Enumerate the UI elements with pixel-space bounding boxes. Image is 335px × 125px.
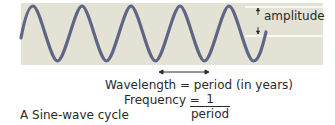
wavelength-arrow-icon bbox=[159, 70, 209, 74]
frequency-formula-prefix: Frequency = bbox=[124, 93, 200, 107]
frequency-numerator: 1 bbox=[190, 92, 230, 107]
amplitude-arrow-icon bbox=[257, 8, 260, 34]
frequency-fraction: 1 period bbox=[190, 92, 230, 122]
frequency-denominator: period bbox=[190, 107, 230, 122]
sine-wave-curve bbox=[21, 6, 266, 61]
amplitude-label: amplitude bbox=[264, 9, 325, 23]
figure-caption: A Sine-wave cycle bbox=[20, 108, 129, 122]
wavelength-formula: Wavelength = period (in years) bbox=[105, 78, 293, 92]
